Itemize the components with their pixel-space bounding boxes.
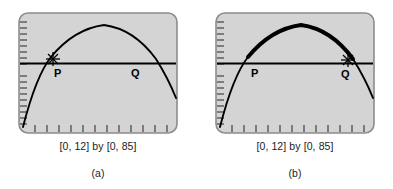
window-caption-b: [0, 12] by [0, 85] bbox=[197, 140, 393, 152]
figure-container: P Q [0, 12] by [0, 85] (a) bbox=[0, 0, 393, 189]
x-cursor-icon-b bbox=[341, 53, 355, 67]
screen-background-b bbox=[216, 13, 374, 133]
calculator-screen-a: P Q bbox=[18, 12, 178, 134]
x-cursor-icon-a bbox=[46, 52, 60, 66]
point-label-q-a: Q bbox=[131, 67, 140, 79]
panel-b: P Q [0, 12] by [0, 85] (b) bbox=[197, 0, 393, 189]
point-label-q-b: Q bbox=[341, 68, 350, 80]
screen-background-a bbox=[19, 13, 177, 133]
window-caption-a: [0, 12] by [0, 85] bbox=[0, 140, 196, 152]
panel-label-b: (b) bbox=[197, 167, 393, 179]
calculator-screen-b: P Q bbox=[215, 12, 375, 134]
point-label-p-b: P bbox=[251, 67, 258, 79]
point-label-p-a: P bbox=[54, 67, 61, 79]
panel-label-a: (a) bbox=[0, 167, 196, 179]
panel-a: P Q [0, 12] by [0, 85] (a) bbox=[0, 0, 196, 189]
